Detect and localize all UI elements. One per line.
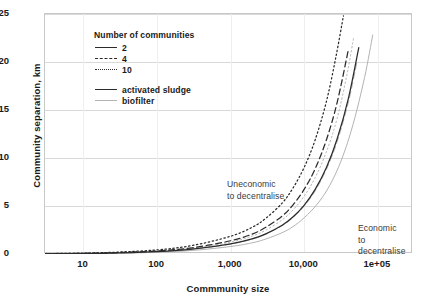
legend-line-icon	[95, 54, 117, 63]
y-tick-label: 20	[0, 55, 9, 66]
legend-entry-count: 10	[95, 64, 243, 75]
legend-line-icon	[95, 43, 117, 52]
annotation-economic: Economic to decentralise	[358, 223, 411, 258]
plot-area: Number of communities 2410 activated slu…	[44, 13, 412, 253]
chart-figure: Community separation, km 0510152025 Numb…	[0, 0, 427, 307]
y-tick-label: 10	[0, 151, 9, 162]
x-tick-label: 10,000	[273, 258, 333, 269]
legend-separator	[93, 75, 243, 84]
legend-label: 10	[122, 65, 132, 75]
y-tick-label: 5	[0, 199, 9, 210]
legend-entry-count: 2	[95, 42, 243, 53]
y-tick-label: 0	[0, 247, 9, 258]
legend-process-entries: activated sludgebiofilter	[93, 84, 243, 106]
legend-label: 4	[122, 54, 127, 64]
legend-entry-process: biofilter	[95, 95, 243, 106]
x-tick-label: 100	[126, 258, 186, 269]
legend-label: activated sludge	[122, 85, 191, 95]
legend-label: biofilter	[122, 96, 154, 106]
y-axis-title: Community separation, km	[31, 6, 42, 246]
x-tick-label: 1,000	[200, 258, 260, 269]
legend-entry-process: activated sludge	[95, 84, 243, 95]
y-tick-label: 25	[0, 7, 9, 18]
legend-line-icon	[95, 65, 117, 74]
y-tick-label: 15	[0, 103, 9, 114]
legend-entry-count: 4	[95, 53, 243, 64]
legend-line-icon	[95, 96, 117, 105]
legend-count-entries: 2410	[93, 42, 243, 75]
legend-title: Number of communities	[94, 30, 243, 40]
x-axis-title: Commmunity size	[44, 283, 412, 294]
legend-line-icon	[95, 85, 117, 94]
x-tick-label: 10	[52, 258, 112, 269]
annotation-uneconomic: Uneconomic to decentralise	[227, 179, 284, 202]
legend-label: 2	[122, 43, 127, 53]
x-tick-label: 1e+05	[347, 258, 407, 269]
legend: Number of communities 2410 activated slu…	[93, 30, 243, 106]
